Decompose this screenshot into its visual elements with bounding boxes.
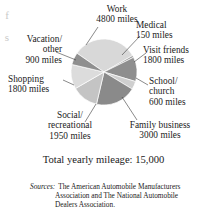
slice-label-social-recreational: Social/ recreational 1950 miles bbox=[30, 110, 110, 141]
leader-school-church bbox=[136, 78, 148, 85]
sources-label: Sources: bbox=[30, 182, 55, 191]
slice-label-school-church-name1: School/ bbox=[149, 76, 207, 86]
sources-note: Sources: The American Automobile Manufac… bbox=[30, 182, 207, 209]
slice-label-medical: Medical 150 miles bbox=[136, 20, 206, 41]
slice-label-vacation-other: Vacation/ other 900 miles bbox=[0, 34, 62, 65]
sources-body: The American Automobile Manufacturers As… bbox=[30, 182, 207, 209]
sources-line-3: Dealers Association. bbox=[55, 200, 207, 209]
slice-label-school-church: School/ church 600 miles bbox=[149, 76, 207, 107]
slice-label-family-business: Family business 3000 miles bbox=[113, 120, 207, 141]
slice-label-social-recreational-value: 1950 miles bbox=[30, 131, 110, 141]
leader-family-business bbox=[122, 97, 137, 120]
slice-label-visit-friends: Visit friends 1800 miles bbox=[143, 45, 207, 66]
slice-label-social-recreational-name2: recreational bbox=[30, 120, 110, 130]
slice-label-medical-value: 150 miles bbox=[136, 30, 206, 40]
slice-label-family-business-value: 3000 miles bbox=[113, 130, 207, 140]
slice-label-shopping-value: 1800 miles bbox=[8, 84, 70, 94]
slice-label-visit-friends-name: Visit friends bbox=[143, 45, 207, 55]
slice-label-work-name: Work bbox=[82, 4, 152, 14]
sources-line-1: The American Automobile Manufacturers bbox=[55, 182, 207, 191]
pie-slices bbox=[71, 39, 137, 105]
slice-label-visit-friends-value: 1800 miles bbox=[143, 55, 207, 65]
slice-label-social-recreational-name1: Social/ bbox=[30, 110, 110, 120]
pie-chart-figure: fs Work 4800 miles Medical 150 miles bbox=[0, 0, 207, 214]
slice-label-shopping: Shopping 1800 miles bbox=[8, 74, 70, 95]
chart-area: Work 4800 miles Medical 150 miles Visit … bbox=[0, 0, 207, 152]
slice-label-medical-name: Medical bbox=[136, 20, 206, 30]
slice-label-school-church-name2: church bbox=[149, 86, 207, 96]
slice-label-vacation-other-name2: other bbox=[0, 44, 62, 54]
slice-label-vacation-other-value: 900 miles bbox=[0, 55, 62, 65]
slice-label-school-church-value: 600 miles bbox=[149, 97, 207, 107]
slice-label-shopping-name: Shopping bbox=[8, 74, 70, 84]
slice-label-family-business-name: Family business bbox=[113, 120, 207, 130]
sources-line-2: Association and The National Automobile bbox=[55, 191, 207, 200]
total-mileage-caption: Total yearly mileage: 15,000 bbox=[0, 154, 207, 165]
slice-label-vacation-other-name1: Vacation/ bbox=[0, 34, 62, 44]
